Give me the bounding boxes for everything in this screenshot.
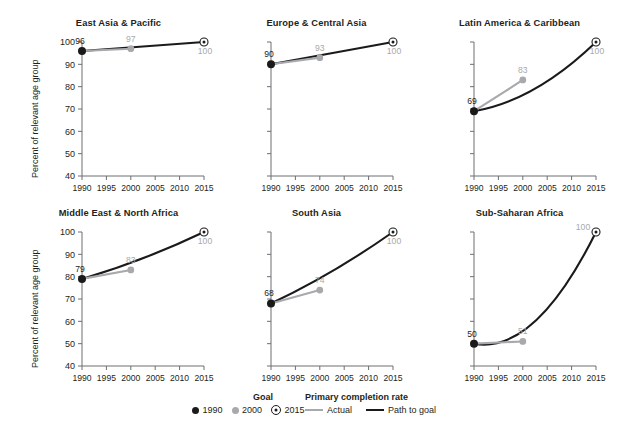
target-circle-icon [271,405,281,415]
legend-item-actual: Actual [305,405,352,415]
legend-goal-title: Goal [253,392,273,402]
legend-item-path-to-goal: Path to goal [366,405,436,415]
svg-text:2015: 2015 [194,183,213,193]
svg-text:2010: 2010 [170,373,189,383]
svg-text:50: 50 [65,339,75,349]
svg-text:1990: 1990 [464,373,483,383]
plot-area: 1990199520002005201020156874100 [267,224,389,364]
svg-text:70: 70 [65,104,75,114]
chart-panel: Middle East & North Africa40506070809010… [8,200,211,390]
chart-panel: Latin America & Caribbean199019952000200… [418,10,621,200]
svg-text:2015: 2015 [383,373,402,383]
svg-text:1995: 1995 [97,373,116,383]
panel-title: East Asia & Pacific [26,18,211,28]
y-axis-label: Percent of relevant age group [30,59,40,178]
svg-text:2000: 2000 [121,373,140,383]
svg-text:2015: 2015 [194,373,213,383]
svg-text:60: 60 [65,127,75,137]
svg-text:2010: 2010 [359,183,378,193]
gray-line-icon [305,409,323,411]
svg-text:90: 90 [65,60,75,70]
svg-text:60: 60 [65,317,75,327]
svg-text:100: 100 [198,236,213,246]
svg-text:90: 90 [264,49,274,59]
panel-title: Latin America & Caribbean [418,18,621,28]
filled-black-dot-icon [192,407,199,414]
svg-text:2010: 2010 [359,373,378,383]
svg-text:1990: 1990 [261,373,280,383]
svg-text:2010: 2010 [562,183,581,193]
panel-title: Middle East & North Africa [26,208,211,218]
svg-text:51: 51 [518,326,528,336]
svg-text:2005: 2005 [335,183,354,193]
legend-label-path-to-goal: Path to goal [388,405,436,415]
legend-label-2015: 2015 [285,405,305,415]
filled-gray-dot-icon [232,407,239,414]
svg-text:80: 80 [65,82,75,92]
svg-text:2005: 2005 [538,183,557,193]
svg-text:40: 40 [65,171,75,181]
svg-text:74: 74 [315,275,325,285]
svg-text:1995: 1995 [489,183,508,193]
y-axis-label: Percent of relevant age group [30,249,40,368]
svg-text:1995: 1995 [489,373,508,383]
legend-label-2000: 2000 [242,405,262,415]
chart-panel: South Asia199019952000200520102015687410… [215,200,418,390]
plot-area: 4050607080901001990199520002005201020159… [78,34,200,174]
svg-text:100: 100 [60,37,75,47]
svg-text:2000: 2000 [310,183,329,193]
svg-text:93: 93 [315,43,325,53]
chart-legend: Goal Primary completion rate 1990 2000 2… [0,392,623,432]
svg-text:2000: 2000 [513,183,532,193]
svg-text:2000: 2000 [513,373,532,383]
svg-text:100: 100 [576,222,591,232]
panel-title: Europe & Central Asia [215,18,418,28]
svg-text:2000: 2000 [121,183,140,193]
svg-text:1990: 1990 [72,183,91,193]
plot-area: 1990199520002005201020155051100 [470,224,592,364]
svg-text:100: 100 [387,236,402,246]
plot-area: 1990199520002005201020156983100 [470,34,592,174]
svg-text:70: 70 [65,294,75,304]
svg-text:50: 50 [65,149,75,159]
svg-text:1995: 1995 [286,373,305,383]
svg-text:1990: 1990 [72,373,91,383]
svg-text:2005: 2005 [146,373,165,383]
svg-text:80: 80 [65,272,75,282]
legend-item-2015: 2015 [271,405,305,415]
svg-text:90: 90 [65,250,75,260]
svg-text:2010: 2010 [562,373,581,383]
legend-item-2000: 2000 [232,405,263,415]
svg-text:97: 97 [126,34,136,44]
chart-panel: Sub-Saharan Africa1990199520002005201020… [418,200,621,390]
svg-text:100: 100 [590,46,605,56]
panel-title: South Asia [215,208,418,218]
legend-item-1990: 1990 [192,405,223,415]
small-multiples-figure: East Asia & Pacific405060708090100199019… [0,0,623,445]
plot-area: 1990199520002005201020159093100 [267,34,389,174]
svg-text:1995: 1995 [97,183,116,193]
svg-text:96: 96 [75,36,85,46]
svg-text:1990: 1990 [261,183,280,193]
svg-text:100: 100 [198,46,213,56]
legend-label-1990: 1990 [203,405,223,415]
legend-rate-title: Primary completion rate [305,392,408,402]
svg-text:2015: 2015 [383,183,402,193]
svg-text:40: 40 [65,361,75,371]
svg-text:2000: 2000 [310,373,329,383]
panel-grid: East Asia & Pacific405060708090100199019… [0,10,623,390]
svg-text:69: 69 [467,96,477,106]
svg-text:1995: 1995 [286,183,305,193]
svg-text:2005: 2005 [335,373,354,383]
black-line-icon [366,409,384,412]
svg-text:100: 100 [60,227,75,237]
svg-text:100: 100 [387,46,402,56]
svg-text:2015: 2015 [586,183,605,193]
legend-goal-row: 1990 2000 2015 [192,405,305,415]
svg-text:2015: 2015 [586,373,605,383]
chart-panel: East Asia & Pacific405060708090100199019… [8,10,211,200]
panel-title: Sub-Saharan Africa [418,208,621,218]
plot-area: 4050607080901001990199520002005201020157… [78,224,200,364]
svg-text:2005: 2005 [146,183,165,193]
svg-text:1990: 1990 [464,183,483,193]
